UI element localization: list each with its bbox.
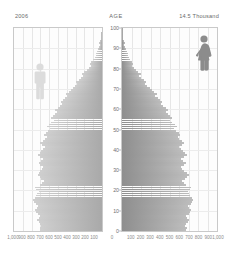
pyramid-bar (33, 199, 102, 201)
pyramid-bar (122, 73, 141, 75)
pyramid-bar (122, 99, 160, 101)
male-plot-panel (13, 27, 103, 232)
pyramid-bar (42, 144, 102, 146)
pyramid-bar (38, 213, 102, 215)
age-tick-mark (119, 231, 121, 232)
pyramid-bar (90, 63, 102, 65)
pyramid-bar (67, 95, 102, 97)
pyramid-bar (122, 30, 123, 32)
pyramid-bar (122, 61, 132, 63)
population-tick-label: 100 (127, 235, 135, 240)
pyramid-bar (122, 182, 184, 184)
pyramid-bar (122, 217, 187, 219)
pyramid-bar (122, 111, 166, 113)
pyramid-bar (122, 85, 147, 87)
pyramid-bar (51, 122, 102, 124)
male-bars (14, 28, 102, 231)
pyramid-bar (91, 65, 102, 67)
pyramid-bar (122, 32, 123, 34)
age-tick-mark (119, 170, 121, 171)
pyramid-bar (79, 79, 102, 81)
pyramid-bar (100, 44, 102, 46)
pyramid-bar (87, 69, 102, 71)
pyramid-bar (122, 34, 123, 36)
pyramid-bar (101, 36, 102, 38)
pyramid-bar (122, 57, 129, 59)
pyramid-bar (41, 225, 102, 227)
age-tick-mark (119, 190, 121, 191)
pyramid-bar (122, 83, 145, 85)
population-tick-label: 500 (54, 235, 62, 240)
pyramid-bar (100, 40, 102, 42)
pyramid-bar (122, 113, 168, 115)
pyramid-bar (122, 211, 190, 213)
pyramid-bar (37, 207, 102, 209)
pyramid-bar (89, 67, 102, 69)
age-axis-title: AGE (109, 13, 122, 19)
year-label: 2006 (15, 13, 28, 19)
pyramid-bar (122, 150, 183, 152)
pyramid-bar (76, 81, 102, 83)
pyramid-bar (91, 61, 102, 63)
pyramid-bar (51, 117, 102, 119)
pyramid-bar (122, 132, 179, 134)
pyramid-bar (122, 152, 185, 154)
male-figure-icon (32, 62, 48, 100)
pyramid-bar (122, 42, 125, 44)
pyramid-bar (49, 124, 102, 126)
population-tick-label: 800 (27, 235, 35, 240)
pyramid-bar (35, 197, 102, 199)
pyramid-bar (39, 221, 102, 223)
pyramid-bar (47, 136, 102, 138)
pyramid-bar (122, 51, 127, 53)
pyramid-bar (44, 180, 102, 182)
pyramid-bar (36, 195, 102, 197)
pyramid-bar (122, 140, 182, 142)
pyramid-bar (122, 199, 193, 201)
pyramid-bar (122, 227, 187, 229)
pyramid-bar (122, 193, 189, 195)
pyramid-bar (45, 138, 102, 140)
pyramid-bar (82, 73, 102, 75)
population-tick-label: 900 (205, 235, 213, 240)
age-axis: 0102030405060708090100 (103, 27, 121, 232)
pyramid-bar (122, 95, 155, 97)
pyramid-bar (122, 160, 183, 162)
pyramid-bar (122, 115, 170, 117)
pyramid-bar (122, 87, 150, 89)
pyramid-bar (40, 227, 102, 229)
zero-tick-label: 0 (111, 235, 114, 240)
pyramid-bar (122, 136, 178, 138)
female-x-axis-labels: 1002003004005006007008009001,000 (121, 235, 218, 245)
pyramid-bar (122, 215, 186, 217)
pyramid-bar (39, 172, 102, 174)
pyramid-bar (122, 168, 182, 170)
chart-header: 2006 AGE 14.5 Thousand (0, 13, 232, 25)
pyramid-bar (122, 187, 191, 189)
pyramid-bar (53, 115, 102, 117)
age-tick-mark (119, 129, 121, 130)
pyramid-bar (36, 189, 102, 191)
pyramid-bar (39, 191, 102, 193)
pyramid-bar (122, 189, 190, 191)
pyramid-bar (101, 32, 102, 34)
pyramid-bar (122, 117, 172, 119)
population-tick-label: 700 (36, 235, 44, 240)
pyramid-bar (65, 97, 102, 99)
pyramid-bar (96, 55, 102, 57)
pyramid-bar (98, 48, 102, 50)
age-tick-mark (119, 68, 121, 69)
pyramid-bar (122, 148, 181, 150)
pyramid-bar (38, 154, 102, 156)
population-pyramid-chart: 2006 AGE 14.5 Thousand 01020304050607080… (0, 0, 232, 269)
pyramid-bar (122, 134, 180, 136)
pyramid-bar (73, 87, 102, 89)
pyramid-bar (122, 166, 181, 168)
pyramid-bar (122, 178, 185, 180)
pyramid-bar (122, 164, 184, 166)
pyramid-bar (122, 53, 128, 55)
population-tick-label: 900 (18, 235, 26, 240)
age-tick-mark (119, 210, 121, 211)
pyramid-bar (77, 83, 102, 85)
pyramid-bar (40, 170, 102, 172)
